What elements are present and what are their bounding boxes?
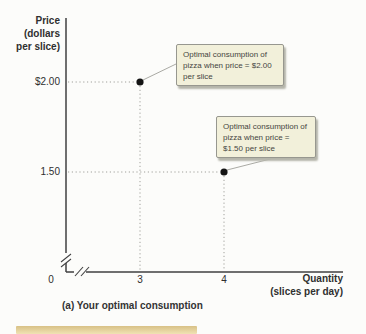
figure-optimal-consumption-chart: Price (dollars per slice) $2.00 1.50 0 3… (0, 0, 366, 334)
leader-line-callout-1 (143, 64, 176, 80)
leader-line-callout-2 (227, 157, 278, 170)
y-tick-label-2.00: $2.00 (0, 76, 60, 87)
annotation-box-price-1.50: Optimal consumption of pizza when price … (216, 116, 316, 158)
x-axis-title-line: Quantity (223, 273, 343, 286)
annotation-box-price-2.00: Optimal consumption of pizza when price … (176, 44, 284, 86)
y-axis-title-line: Price (0, 14, 60, 27)
y-tick-label-1.50: 1.50 (0, 166, 60, 177)
y-axis-title-line: (dollars (0, 27, 60, 40)
data-point-3-2.00 (136, 78, 143, 85)
x-tick-label-0: 0 (44, 274, 58, 285)
figure-caption: (a) Your optimal consumption (62, 300, 203, 311)
x-axis-title: Quantity (slices per day) (223, 273, 343, 298)
y-axis-title-line: per slice) (0, 40, 60, 53)
x-axis-title-line: (slices per day) (223, 286, 343, 299)
y-axis-title: Price (dollars per slice) (0, 14, 60, 53)
cropped-highlight-band (16, 326, 197, 334)
data-point-4-1.50 (220, 168, 227, 175)
x-tick-label-3: 3 (133, 274, 147, 285)
